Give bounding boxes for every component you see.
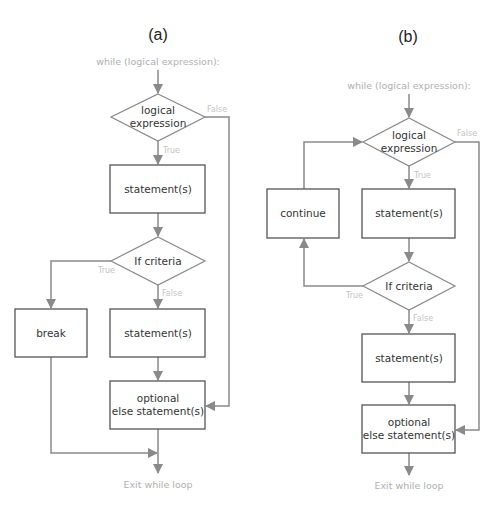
stmt1-text: statement(s) (124, 183, 192, 195)
diagram-a: (a) while (logical expression): logical … (15, 26, 229, 490)
exit-label: Exit while loop (123, 479, 192, 490)
else-line1: optional (137, 392, 180, 404)
else-line2: else statement(s) (363, 429, 455, 441)
diagram-b-start-label: while (logical expression): (347, 80, 471, 91)
label-false: False (413, 314, 433, 323)
exit-label: Exit while loop (374, 480, 443, 491)
diagram-b: (b) while (logical expression): logical … (267, 28, 479, 491)
edge-cond1-false (205, 117, 229, 406)
label-false: False (457, 129, 477, 138)
else-line2: else statement(s) (112, 405, 204, 417)
diagram-b-title: (b) (398, 28, 418, 45)
label-true: True (162, 146, 180, 155)
stmt1-text: statement(s) (375, 207, 443, 219)
stmt2-text: statement(s) (375, 352, 443, 364)
label-false: False (162, 289, 182, 298)
label-true: True (97, 266, 115, 275)
cond1-line1: logical (141, 104, 175, 116)
diagram-a-start-label: while (logical expression): (96, 56, 220, 67)
continue-text: continue (280, 207, 326, 219)
edge-cond2-true (304, 239, 363, 286)
edge-cond1-false (455, 142, 479, 430)
break-text: break (36, 327, 67, 339)
cond1-line2: expression (381, 142, 438, 154)
flowchart-canvas: (a) while (logical expression): logical … (0, 0, 494, 505)
cond2-text: If criteria (385, 280, 432, 292)
label-true: True (413, 171, 431, 180)
cond1-line2: expression (130, 117, 187, 129)
label-false: False (207, 105, 227, 114)
cond1-line1: logical (392, 129, 426, 141)
stmt2-text: statement(s) (124, 327, 192, 339)
else-line1: optional (388, 416, 431, 428)
label-true: True (345, 291, 363, 300)
diagram-a-title: (a) (148, 26, 168, 43)
edge-continue-to-cond1 (304, 142, 362, 189)
cond2-text: If criteria (134, 255, 181, 267)
